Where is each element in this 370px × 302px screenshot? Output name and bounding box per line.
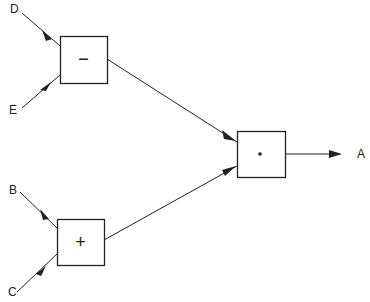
edge-plus-to-times [104,166,237,240]
arrowhead-plus-times [222,166,236,176]
edge-minus-to-times [107,59,237,142]
label-c: C [8,286,17,298]
label-e: E [9,104,17,116]
arrowhead-b [40,209,49,220]
arrowhead-d [42,30,52,41]
label-a: A [357,148,365,160]
arrowhead-e [40,82,51,91]
plus-symbol: + [57,233,104,251]
edge-e-to-minus [22,75,60,108]
minus-symbol: − [60,50,107,68]
arrowhead-a [329,150,342,158]
label-d: D [10,3,19,15]
edge-c-to-plus [17,254,57,292]
arrowhead-c [36,266,46,276]
edge-d-to-minus [22,13,60,46]
dataflow-diagram [0,0,370,302]
arrowhead-minus-times [222,130,236,141]
label-b: B [9,184,17,196]
edge-b-to-plus [20,192,57,228]
times-dot-icon [258,152,262,156]
